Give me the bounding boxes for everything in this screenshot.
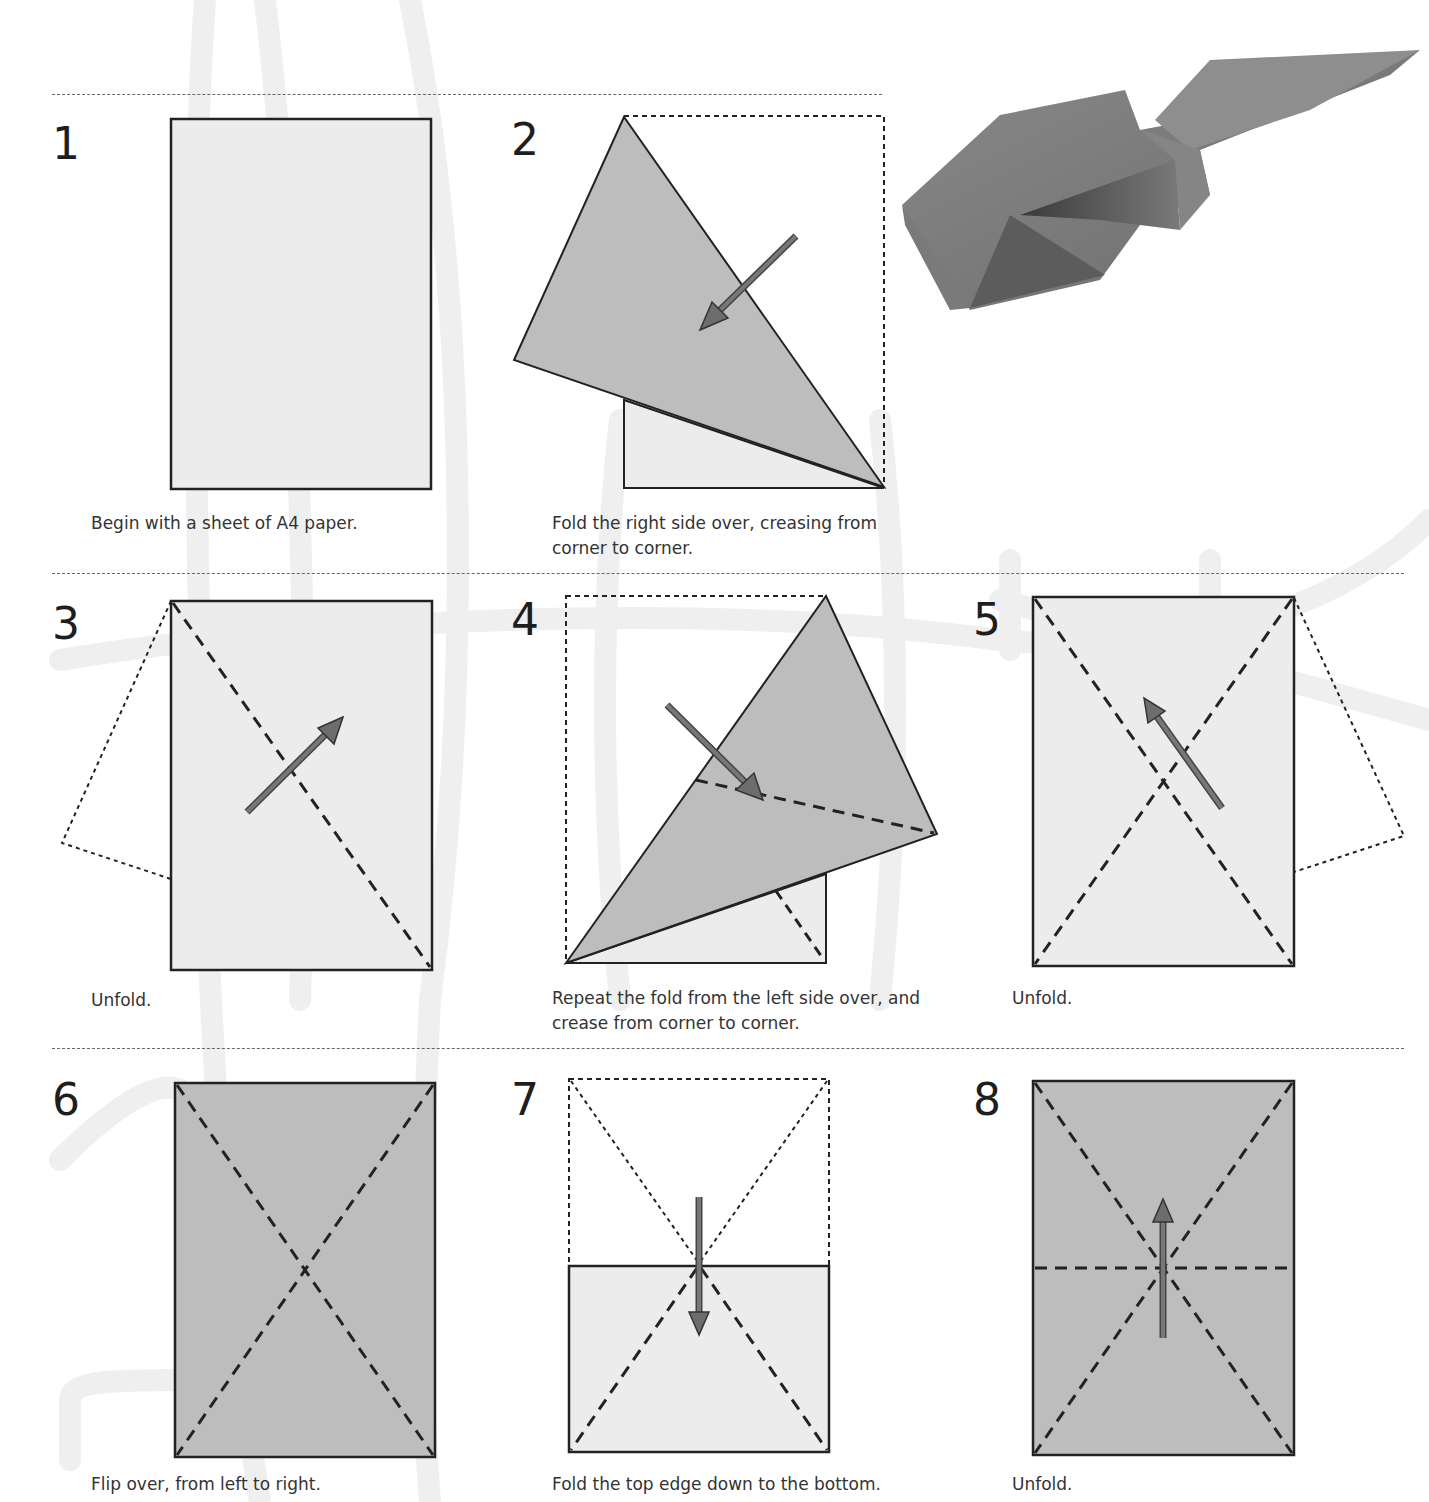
divider-row2 — [52, 573, 1404, 574]
step-2-caption: Fold the right side over, creasing from … — [552, 511, 877, 561]
arrow-icon — [1153, 1199, 1173, 1222]
arrow-icon — [689, 1312, 709, 1335]
paper-sheet — [171, 119, 431, 489]
folded-flap — [514, 117, 884, 487]
step-2-caption-line2: corner to corner. — [552, 536, 877, 561]
folded-flap — [566, 596, 937, 963]
step-4-caption: Repeat the fold from the left side over,… — [552, 986, 920, 1036]
step-6-caption: Flip over, from left to right. — [91, 1472, 321, 1497]
step-2-number: 2 — [511, 118, 539, 162]
step-7-caption: Fold the top edge down to the bottom. — [552, 1472, 881, 1497]
step-1-number: 1 — [52, 122, 80, 166]
step-4-number: 4 — [511, 598, 539, 642]
step-4-caption-line1: Repeat the fold from the left side over,… — [552, 986, 920, 1011]
arrow-icon — [318, 717, 343, 744]
step-3-caption: Unfold. — [91, 988, 152, 1013]
step-1-caption: Begin with a sheet of A4 paper. — [91, 511, 358, 536]
divider-top — [52, 94, 882, 95]
step-8-caption: Unfold. — [1012, 1472, 1073, 1497]
paper-underside — [624, 400, 884, 488]
arrow-icon — [700, 302, 728, 330]
step-2-caption-line1: Fold the right side over, creasing from — [552, 511, 877, 536]
arrow-icon — [736, 773, 763, 800]
step-6-number: 6 — [52, 1078, 80, 1122]
finished-plane-photo — [890, 40, 1429, 340]
step-5-number: 5 — [973, 598, 1001, 642]
step-4-caption-line2: crease from corner to corner. — [552, 1011, 920, 1036]
step-7-number: 7 — [511, 1078, 539, 1122]
arrow-icon — [1144, 698, 1165, 723]
step-3-number: 3 — [52, 602, 80, 646]
step-8-number: 8 — [973, 1078, 1001, 1122]
divider-row3 — [52, 1048, 1404, 1049]
step-5-caption: Unfold. — [1012, 986, 1073, 1011]
